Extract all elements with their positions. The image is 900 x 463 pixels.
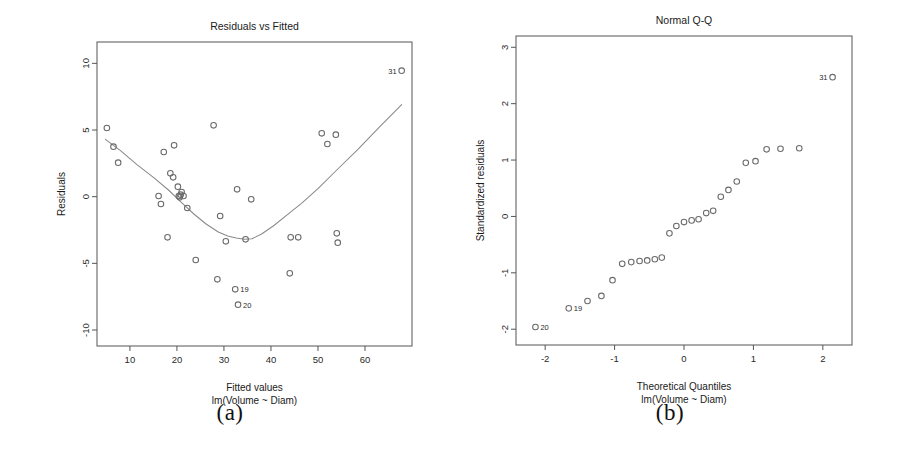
data-point — [585, 298, 591, 304]
chart-title: Residuals vs Fitted — [210, 20, 299, 32]
x-tick-label: 60 — [360, 354, 371, 365]
data-point — [161, 149, 167, 155]
y-tick-label: -10 — [80, 323, 91, 337]
y-tick-label: -2 — [499, 325, 510, 333]
y-tick-label: 0 — [80, 194, 91, 199]
data-point — [703, 210, 709, 216]
plot-frame — [516, 36, 852, 345]
plot-frame — [97, 42, 412, 346]
x-tick-label: 50 — [313, 354, 324, 365]
y-axis-title: Standardized residuals — [475, 140, 486, 242]
chart-title: Normal Q-Q — [656, 14, 713, 26]
data-point — [637, 258, 643, 264]
y-tick-label: 3 — [499, 45, 510, 50]
point-label-20: 20 — [243, 301, 251, 310]
data-point — [215, 277, 221, 283]
normal-qq-chart: Normal Q-Q-2-1012-2-10123Standardized re… — [440, 0, 900, 400]
data-point — [319, 131, 325, 137]
point-label-19: 19 — [574, 304, 582, 313]
data-point — [689, 218, 695, 224]
data-point — [778, 146, 784, 152]
x-axis-title: Theoretical Quantiles — [637, 381, 732, 392]
x-tick-label: 1 — [751, 353, 756, 364]
data-point — [659, 255, 665, 261]
data-point — [753, 158, 759, 164]
figure-root: Residuals vs Fitted102030405060-10-50510… — [0, 0, 900, 463]
data-point — [796, 145, 802, 151]
point-label-20: 20 — [540, 323, 548, 332]
data-point — [335, 240, 341, 246]
data-point — [667, 231, 673, 237]
data-point — [235, 302, 241, 308]
x-tick-label: -1 — [610, 353, 618, 364]
data-point — [533, 324, 539, 330]
data-point — [287, 271, 293, 277]
data-point — [334, 231, 340, 237]
data-point — [830, 74, 836, 80]
data-point — [288, 235, 294, 241]
data-point — [674, 223, 680, 229]
y-tick-label: 2 — [499, 101, 510, 106]
data-point — [217, 213, 223, 219]
x-tick-label: 0 — [681, 353, 686, 364]
data-point — [599, 293, 605, 299]
data-point — [295, 235, 301, 241]
subfigure-caption-b: (b) — [440, 400, 900, 426]
data-point — [234, 187, 240, 193]
data-point — [175, 184, 181, 190]
lowess-smooth-curve — [105, 105, 401, 240]
y-tick-label: 5 — [80, 127, 91, 132]
data-point — [628, 259, 634, 265]
data-point — [566, 306, 572, 312]
data-point — [644, 258, 650, 264]
y-tick-label: 1 — [499, 157, 510, 162]
subfigure-caption-a: (a) — [0, 400, 460, 426]
data-point — [652, 256, 658, 262]
data-point — [619, 261, 625, 267]
x-tick-label: -2 — [541, 353, 549, 364]
data-point — [232, 287, 238, 293]
data-point — [610, 277, 616, 283]
data-point — [681, 219, 687, 225]
data-point — [718, 194, 724, 200]
data-point — [696, 216, 702, 222]
data-point — [333, 132, 339, 138]
data-point — [710, 208, 716, 214]
data-point — [193, 257, 199, 263]
x-tick-label: 20 — [172, 354, 183, 365]
y-tick-label: -1 — [499, 269, 510, 277]
data-point — [170, 175, 176, 181]
data-point — [171, 143, 177, 149]
data-point — [223, 239, 229, 245]
data-point — [248, 197, 254, 203]
data-point — [156, 193, 162, 199]
data-point — [734, 179, 740, 185]
data-point — [764, 147, 770, 153]
y-axis-title: Residuals — [56, 172, 67, 216]
x-tick-label: 2 — [820, 353, 825, 364]
point-label-31: 31 — [388, 67, 396, 76]
point-label-31: 31 — [819, 73, 827, 82]
panel-residuals-vs-fitted: Residuals vs Fitted102030405060-10-50510… — [0, 0, 460, 463]
point-label-19: 19 — [240, 285, 248, 294]
data-point — [115, 160, 121, 166]
panel-normal-qq: Normal Q-Q-2-1012-2-10123Standardized re… — [440, 0, 900, 463]
x-tick-label: 40 — [266, 354, 277, 365]
data-point — [399, 68, 405, 74]
x-tick-label: 30 — [219, 354, 230, 365]
data-point — [158, 201, 164, 207]
x-tick-label: 10 — [125, 354, 136, 365]
data-point — [104, 125, 110, 131]
x-axis-title: Fitted values — [226, 382, 283, 393]
data-point — [726, 187, 732, 193]
data-point — [743, 160, 749, 166]
residuals-vs-fitted-chart: Residuals vs Fitted102030405060-10-50510… — [0, 0, 460, 400]
y-tick-label: 10 — [80, 58, 91, 69]
y-tick-label: 0 — [499, 214, 510, 219]
data-point — [168, 171, 174, 177]
y-tick-label: -5 — [80, 259, 91, 267]
data-point — [325, 141, 331, 147]
data-point — [211, 123, 217, 129]
data-point — [165, 235, 171, 241]
